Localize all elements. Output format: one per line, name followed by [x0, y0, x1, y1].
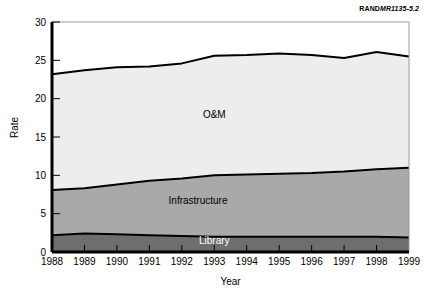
y-tick-label: 20	[35, 93, 47, 104]
y-tick-label: 30	[35, 17, 47, 28]
y-tick-label: 15	[35, 132, 47, 143]
x-tick-label: 1989	[73, 256, 96, 267]
x-tick-label: 1991	[138, 256, 161, 267]
area-label-library: Library	[199, 235, 230, 246]
plot-area-group	[52, 52, 409, 252]
x-tick-label: 1998	[365, 256, 388, 267]
x-tick-label: 1993	[203, 256, 226, 267]
y-tick-label: 25	[35, 55, 47, 66]
stacked-area-chart: 0510152025301988198919901991199219931994…	[0, 0, 425, 296]
area-label-o-m: O&M	[203, 109, 226, 120]
y-tick-label: 10	[35, 170, 47, 181]
x-tick-label: 1994	[236, 256, 259, 267]
y-tick-label: 5	[40, 208, 46, 219]
x-tick-label: 1995	[268, 256, 291, 267]
x-tick-label: 1988	[41, 256, 64, 267]
x-tick-label: 1992	[171, 256, 194, 267]
x-tick-label: 1990	[106, 256, 129, 267]
area-label-infrastructure: Infrastructure	[169, 195, 228, 206]
x-tick-label: 1999	[398, 256, 421, 267]
x-tick-label: 1996	[301, 256, 324, 267]
x-tick-label: 1997	[333, 256, 356, 267]
chart-figure: RANDMR1135-5.2 Rate Year 051015202530198…	[0, 0, 425, 296]
